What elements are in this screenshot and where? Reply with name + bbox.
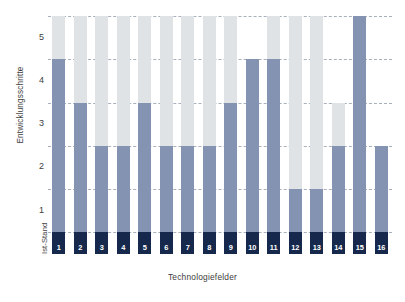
- bar-segment-progress: [203, 146, 216, 233]
- chart-figure: Entwicklungsschritte Ist-Stand 2011 1234…: [0, 0, 405, 302]
- bar[interactable]: 8: [203, 16, 216, 254]
- bar[interactable]: 10: [246, 16, 259, 254]
- bar[interactable]: 13: [310, 16, 323, 254]
- bar-segment-progress: [310, 189, 323, 232]
- bar[interactable]: 9: [224, 16, 237, 254]
- bar-segment-potential: [181, 16, 194, 146]
- bar-segment-progress: [246, 59, 259, 232]
- bar[interactable]: 12: [289, 16, 302, 254]
- bar[interactable]: 5: [138, 16, 151, 254]
- bar-segment-potential: [289, 16, 302, 189]
- bar-number-label: 12: [289, 244, 302, 252]
- bar-segment-potential: [224, 16, 237, 103]
- bar[interactable]: 2: [74, 16, 87, 254]
- y-tick-label: 3: [18, 118, 44, 128]
- bar-segment-progress: [353, 16, 366, 232]
- bar-segment-progress: [52, 59, 65, 232]
- bar-number-label: 7: [181, 244, 194, 252]
- bar-segment-potential: [117, 16, 130, 146]
- bar-segment-progress: [95, 146, 108, 233]
- bar-number-label: 16: [375, 244, 388, 252]
- bar[interactable]: 6: [160, 16, 173, 254]
- bar-segment-progress: [375, 146, 388, 233]
- x-axis-title: Technologiefelder: [0, 272, 405, 282]
- bar-segment-progress: [289, 189, 302, 232]
- bar-segment-progress: [117, 146, 130, 233]
- bar-segment-progress: [224, 103, 237, 233]
- bar-segment-progress: [267, 59, 280, 232]
- bar-segment-potential: [138, 16, 151, 103]
- bar-segment-progress: [138, 103, 151, 233]
- bar[interactable]: 11: [267, 16, 280, 254]
- bar-number-label: 15: [353, 244, 366, 252]
- bar[interactable]: 3: [95, 16, 108, 254]
- bar-segment-potential: [203, 16, 216, 146]
- bar-segment-potential: [332, 103, 345, 146]
- bar[interactable]: 4: [117, 16, 130, 254]
- y-tick-label: 4: [18, 75, 44, 85]
- bar-segment-potential: [267, 16, 280, 59]
- bar-number-label: 11: [267, 244, 280, 252]
- bar[interactable]: 15: [353, 16, 366, 254]
- bar-segment-progress: [181, 146, 194, 233]
- bar-segment-potential: [74, 16, 87, 103]
- y-tick-label: 5: [18, 32, 44, 42]
- bar-number-label: 2: [74, 244, 87, 252]
- plot-area: 12345 12345678910111213141516: [48, 16, 392, 254]
- bar-segment-potential: [52, 16, 65, 59]
- bar-number-label: 5: [138, 244, 151, 252]
- y-tick-label: 1: [18, 205, 44, 215]
- bar-number-label: 9: [224, 244, 237, 252]
- bar-number-label: 6: [160, 244, 173, 252]
- bar-segment-progress: [74, 103, 87, 233]
- bar-segment-potential: [310, 16, 323, 189]
- bar-number-label: 3: [95, 244, 108, 252]
- bar-segment-progress: [160, 146, 173, 233]
- bar[interactable]: 16: [375, 16, 388, 254]
- bar[interactable]: 1: [52, 16, 65, 254]
- bar-number-label: 8: [203, 244, 216, 252]
- y-tick-label: 2: [18, 161, 44, 171]
- bar-number-label: 14: [332, 244, 345, 252]
- bar[interactable]: 14: [332, 16, 345, 254]
- bar-number-label: 13: [310, 244, 323, 252]
- bar-segment-progress: [332, 146, 345, 233]
- bar-segment-potential: [95, 16, 108, 146]
- bar-number-label: 10: [246, 244, 259, 252]
- bar-number-label: 4: [117, 244, 130, 252]
- bar[interactable]: 7: [181, 16, 194, 254]
- bar-segment-potential: [160, 16, 173, 146]
- bar-number-label: 1: [52, 244, 65, 252]
